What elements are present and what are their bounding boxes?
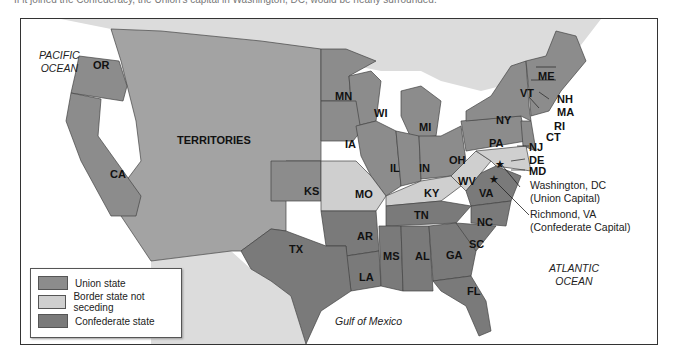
figure-caption: If it joined the Confederacy, the Union'… [14, 0, 437, 5]
label-nj: NJ [529, 141, 543, 153]
union-capital-caption: Washington, DC (Union Capital) [530, 179, 606, 205]
legend-item-border: Border state not seceding [38, 295, 181, 309]
label-ny: NY [496, 114, 511, 126]
label-sc: SC [469, 238, 484, 250]
label-tx: TX [289, 243, 303, 255]
label-ky: KY [424, 187, 439, 199]
label-la: LA [359, 271, 374, 283]
map-legend: Union state Border state not seceding Co… [30, 268, 182, 338]
label-mn: MN [335, 90, 352, 102]
label-fl: FL [467, 285, 480, 297]
label-wi: WI [374, 107, 387, 119]
label-vt: VT [520, 87, 534, 99]
legend-item-confederate: Confederate state [38, 314, 155, 328]
label-mo: MO [355, 188, 373, 200]
union-capital-star-icon: ★ [495, 158, 505, 170]
gulf-of-mexico-label: Gulf of Mexico [335, 315, 402, 328]
legend-item-union: Union state [38, 276, 126, 290]
union-swatch [38, 276, 68, 290]
map-frame: ★ ★ PACIFIC OCEAN ATLANTIC OCEAN Gulf of… [20, 18, 658, 345]
label-md: MD [529, 165, 546, 177]
label-me: ME [538, 70, 555, 82]
state-fl [433, 276, 491, 336]
label-mi: MI [419, 121, 431, 133]
label-ca: CA [110, 168, 126, 180]
pacific-ocean-label: PACIFIC OCEAN [39, 49, 80, 75]
label-al: AL [415, 250, 430, 262]
label-ga: GA [446, 249, 463, 261]
confederate-swatch [38, 314, 68, 328]
label-ms: MS [383, 250, 400, 262]
label-ia: IA [345, 138, 356, 150]
confederate-capital-caption: Richmond, VA (Confederate Capital) [530, 208, 630, 234]
label-pa: PA [489, 137, 503, 149]
label-oh: OH [449, 154, 466, 166]
state-ia [321, 101, 361, 141]
label-ks: KS [304, 185, 319, 197]
label-ma: MA [557, 106, 574, 118]
label-va: VA [479, 187, 493, 199]
atlantic-ocean-label: ATLANTIC OCEAN [549, 262, 599, 288]
label-il: IL [390, 162, 400, 174]
state-ca [66, 93, 141, 216]
border-state-swatch [38, 295, 66, 309]
label-tn: TN [414, 209, 429, 221]
label-wv: WV [458, 175, 476, 187]
label-ct: CT [546, 131, 561, 143]
label-ar: AR [357, 230, 373, 242]
label-nh: NH [557, 93, 573, 105]
label-in: IN [419, 162, 430, 174]
label-or: OR [93, 59, 110, 71]
label-territories: TERRITORIES [177, 134, 251, 146]
label-nc: NC [477, 216, 493, 228]
